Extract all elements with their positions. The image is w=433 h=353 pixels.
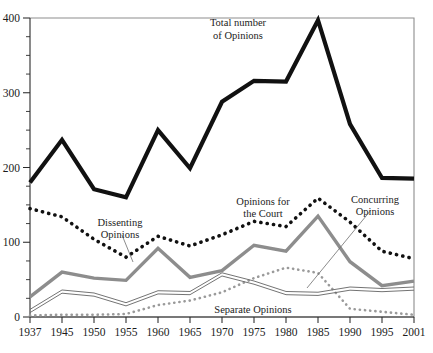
separate-label-line1: Separate Opinions bbox=[214, 304, 291, 315]
x-tick-label-1955: 1955 bbox=[115, 326, 138, 338]
x-tick-label-1950: 1950 bbox=[83, 326, 106, 338]
y-tick-label-100: 100 bbox=[3, 236, 21, 248]
x-tick-label-1995: 1995 bbox=[371, 326, 394, 338]
chart-canvas: 0100200300400 19371945195019551960196519… bbox=[0, 0, 433, 353]
x-tick-label-1985: 1985 bbox=[307, 326, 330, 338]
total-label-line1: Total number bbox=[210, 17, 267, 28]
court-label-line1: Opinions for bbox=[236, 196, 290, 207]
x-tick-label-1990: 1990 bbox=[339, 326, 362, 338]
opinions-chart: 0100200300400 19371945195019551960196519… bbox=[0, 0, 433, 353]
y-tick-label-400: 400 bbox=[3, 12, 21, 24]
x-tick-label-1980: 1980 bbox=[275, 326, 298, 338]
y-tick-label-0: 0 bbox=[14, 311, 20, 323]
x-tick-label-1937: 1937 bbox=[19, 326, 42, 338]
total-label-line2: of Opinions bbox=[213, 30, 263, 41]
x-tick-label-2001: 2001 bbox=[403, 326, 426, 338]
y-tick-label-200: 200 bbox=[3, 162, 21, 174]
dissenting-label-line1: Dissenting bbox=[98, 217, 144, 228]
x-tick-label-1965: 1965 bbox=[179, 326, 202, 338]
x-tick-label-1975: 1975 bbox=[243, 326, 266, 338]
x-tick-label-1970: 1970 bbox=[211, 326, 234, 338]
x-tick-label-1945: 1945 bbox=[51, 326, 74, 338]
concurring-label-line2: Opinions bbox=[356, 206, 395, 217]
concurring-label-line1: Concurring bbox=[351, 194, 400, 205]
x-tick-label-1960: 1960 bbox=[147, 326, 170, 338]
chart-background bbox=[0, 0, 433, 353]
court-label-line2: the Court bbox=[243, 208, 282, 219]
dissenting-label-line2: Opinions bbox=[101, 229, 140, 240]
y-tick-label-300: 300 bbox=[3, 87, 21, 99]
